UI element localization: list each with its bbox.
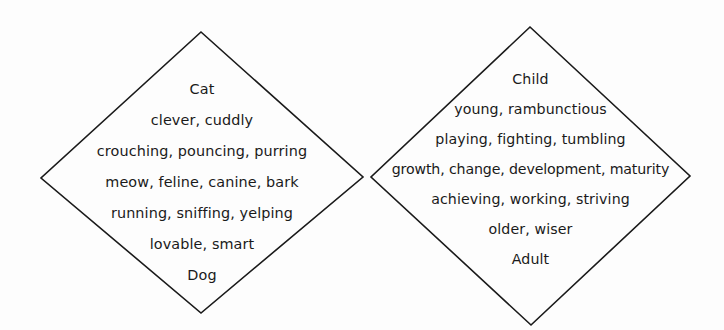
left-line-4: meow, feline, canine, bark [41, 167, 363, 198]
left-line-2: clever, cuddly [41, 105, 363, 136]
right-line-6: older, wiser [371, 214, 690, 244]
left-line-6: lovable, smart [41, 229, 363, 260]
left-diamond-text: Cat clever, cuddly crouching, pouncing, … [41, 74, 363, 291]
right-line-5: achieving, working, striving [371, 184, 690, 214]
left-line-3: crouching, pouncing, purring [41, 136, 363, 167]
right-line-4: growth, change, development, maturity [371, 154, 690, 184]
right-line-2: young, rambunctious [371, 94, 690, 124]
right-diamond-text: Child young, rambunctious playing, fight… [371, 64, 690, 274]
left-line-7: Dog [41, 260, 363, 291]
right-line-1: Child [371, 64, 690, 94]
left-line-1: Cat [41, 74, 363, 105]
diagram-canvas: Cat clever, cuddly crouching, pouncing, … [0, 0, 724, 330]
right-line-3: playing, fighting, tumbling [371, 124, 690, 154]
right-line-7: Adult [371, 244, 690, 274]
left-line-5: running, sniffing, yelping [41, 198, 363, 229]
